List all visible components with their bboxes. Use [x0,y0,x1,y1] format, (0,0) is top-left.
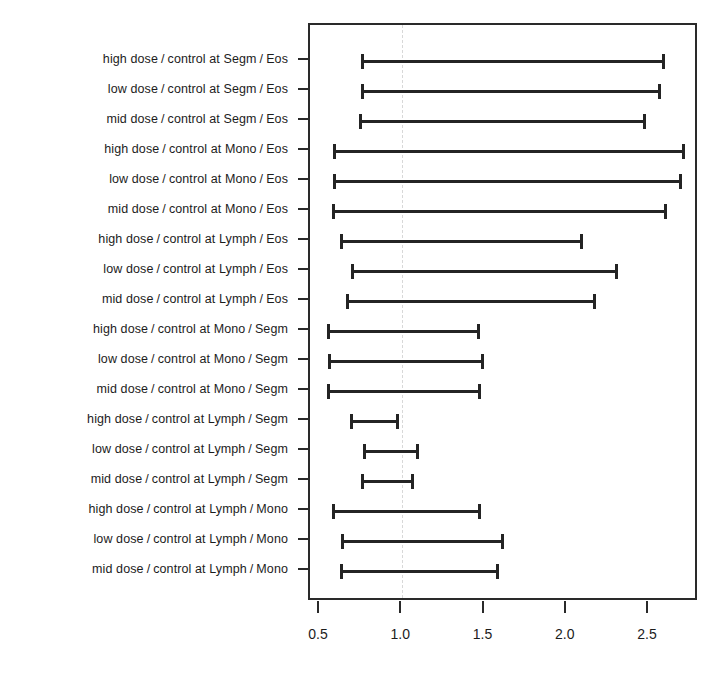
y-axis-label: mid dose/control at Mono/Eos [2,202,288,216]
interval-upper-cap [481,354,484,369]
label-separator: / [245,382,255,396]
interval-line [340,240,583,243]
y-axis-label: low dose/control at Segm/Eos [2,82,288,96]
confidence-interval [327,384,482,398]
label-cell-type: Segm [255,352,288,366]
interval-upper-cap [496,564,499,579]
interval-upper-cap [477,324,480,339]
y-axis-label: high dose/control at Mono/Eos [2,142,288,156]
y-axis-tick [298,268,310,270]
interval-lower-cap [333,174,336,189]
label-separator: / [257,292,267,306]
label-separator: / [257,262,267,276]
x-axis-tick [317,601,319,613]
interval-lower-cap [332,504,335,519]
interval-upper-cap [501,534,504,549]
y-axis-tick [298,238,310,240]
interval-upper-cap [643,114,646,129]
y-axis-label: high dose/control at Lymph/Mono [2,502,288,516]
label-dose: mid dose [92,562,144,576]
label-separator: / [257,112,267,126]
label-separator: / [245,472,255,486]
label-dose: low dose [108,82,158,96]
interval-line [333,180,682,183]
label-separator: / [158,52,168,66]
y-axis-tick [298,538,310,540]
interval-upper-cap [411,474,414,489]
label-separator: / [247,562,257,576]
x-axis-tick-label: 0.5 [288,626,348,642]
interval-line [332,210,668,213]
interval-line [346,300,596,303]
label-cell-type: Eos [266,52,288,66]
label-separator: / [257,172,267,186]
label-dose: high dose [89,502,144,516]
label-separator: / [257,52,267,66]
interval-line [327,390,482,393]
label-dose: high dose [104,142,159,156]
y-axis-label-column: high dose/control at Segm/Eoslow dose/co… [0,0,292,679]
label-comparison: control at Mono [169,142,257,156]
y-axis-label: low dose/control at Mono/Segm [2,352,288,366]
label-cell-type: Segm [255,442,288,456]
confidence-interval [328,354,484,368]
label-cell-type: Eos [266,112,288,126]
interval-upper-cap [662,54,665,69]
label-comparison: control at Segm [168,112,257,126]
confidence-interval [359,114,645,128]
label-separator: / [142,412,152,426]
y-axis-tick [298,478,310,480]
label-dose: mid dose [91,472,143,486]
label-cell-type: Eos [266,202,288,216]
label-separator: / [247,532,257,546]
label-separator: / [153,292,163,306]
label-cell-type: Eos [266,232,288,246]
interval-line [341,540,504,543]
x-axis-tick-label: 1.0 [370,626,430,642]
label-cell-type: Mono [256,532,288,546]
label-separator: / [159,172,169,186]
x-axis-tick-label: 2.5 [617,626,677,642]
label-dose: mid dose [102,292,154,306]
label-separator: / [158,82,168,96]
label-cell-type: Segm [255,412,288,426]
y-axis-label: high dose/control at Segm/Eos [2,52,288,66]
interval-line [359,120,645,123]
interval-upper-cap [396,414,399,429]
interval-line [361,90,660,93]
label-cell-type: Eos [266,262,288,276]
confidence-interval [340,564,500,578]
y-axis-tick [298,178,310,180]
label-dose: low dose [98,352,148,366]
label-separator: / [144,562,154,576]
label-cell-type: Mono [256,562,288,576]
interval-lower-cap [361,54,364,69]
interval-line [363,450,419,453]
y-axis-label: mid dose/control at Lymph/Mono [2,562,288,576]
y-axis-tick [298,298,310,300]
label-separator: / [158,112,168,126]
confidence-interval [361,474,414,488]
interval-line [340,570,500,573]
label-separator: / [247,502,257,516]
label-separator: / [148,382,158,396]
x-axis-tick-label: 1.5 [453,626,513,642]
plot-panel [308,23,697,600]
label-cell-type: Eos [266,82,288,96]
confidence-interval [332,204,668,218]
interval-upper-cap [580,234,583,249]
y-axis-tick [298,328,310,330]
y-axis-tick [298,148,310,150]
interval-upper-cap [416,444,419,459]
y-axis-tick [298,208,310,210]
label-dose: low dose [93,532,143,546]
confidence-interval [333,174,682,188]
confidence-interval [332,504,482,518]
interval-lower-cap [332,204,335,219]
label-comparison: control at Mono [158,322,246,336]
interval-lower-cap [361,474,364,489]
interval-lower-cap [328,354,331,369]
label-comparison: control at Segm [168,82,257,96]
interval-lower-cap [327,384,330,399]
label-dose: low dose [103,262,153,276]
